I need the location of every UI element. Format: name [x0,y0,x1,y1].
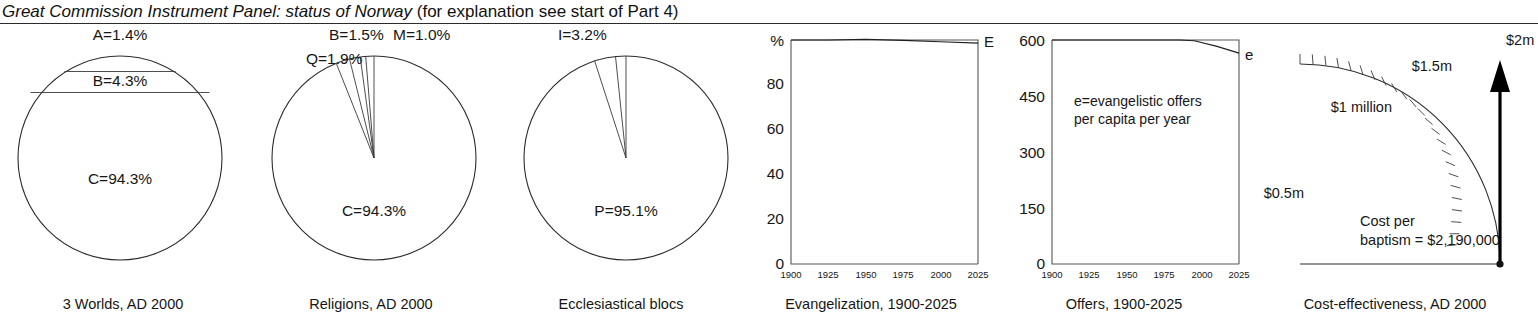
gauge-label-1: $1 million [1331,99,1392,115]
three-worlds-pie-svg: A=1.4% B=4.3% C=94.3% [0,26,246,288]
x-tick-1900: 1900 [780,269,801,280]
chart-three-worlds: A=1.4% B=4.3% C=94.3% 3 Worlds, AD 2000 [0,26,246,316]
gauge-label-2: $1.5m [1412,58,1452,74]
gauge-note-line2: baptism = $2,190,000 [1360,232,1500,248]
x-tick-1950: 1950 [1116,269,1137,280]
chart-religions: B=1.5% M=1.0% Q=1.9% C=94.3% Religions, … [246,26,496,316]
x-tick-1975: 1975 [892,269,913,280]
cost-effectiveness-gauge-svg: $0.5m $1 million $1.5m $2m Cost per bapt… [1252,26,1538,288]
y-tick-450: 450 [1019,88,1045,105]
panel-header: Great Commission Instrument Panel: statu… [0,0,1538,26]
x-tick-2025: 2025 [1228,269,1249,280]
x-tick-1900: 1900 [1041,269,1062,280]
chart-cost-effectiveness: $0.5m $1 million $1.5m $2m Cost per bapt… [1252,26,1538,316]
offers-note-line2: per capita per year [1074,111,1191,127]
pie-label-m: M=1.0% [393,26,451,43]
caption-cost-effectiveness: Cost-effectiveness, AD 2000 [1252,296,1538,312]
series-label-E: E [984,33,994,50]
x-tick-1925: 1925 [817,269,838,280]
series-line-e [1052,40,1239,53]
pie-label-p: P=95.1% [594,202,658,219]
gauge-label-0: $0.5m [1264,185,1304,201]
pie-label-i: I=3.2% [558,26,607,43]
caption-offers: Offers, 1900-2025 [996,296,1252,312]
gauge-note-line1: Cost per [1360,213,1415,229]
caption-three-worlds: 3 Worlds, AD 2000 [0,296,246,312]
pie-label-c: C=94.3% [88,170,152,187]
pie-label-b: B=4.3% [93,72,148,89]
plot-axes [1052,40,1239,264]
y-tick-20: 20 [767,210,785,227]
pie-label-b: B=1.5% [329,26,384,43]
page-title-italic: Great Commission Instrument Panel: statu… [2,2,412,21]
evangelization-line-svg: % 80 60 40 20 0 1900 1925 1950 1975 2000… [746,26,996,288]
x-tick-1925: 1925 [1078,269,1099,280]
plot-frame-top-right [1052,40,1239,264]
y-tick-60: 60 [767,120,785,137]
caption-religions: Religions, AD 2000 [246,296,496,312]
chart-evangelization: % 80 60 40 20 0 1900 1925 1950 1975 2000… [746,26,996,316]
chart-ecclesiastical-blocs: I=3.2% P=95.1% Ecclesiastical blocs [496,26,746,316]
pie-label-a: A=1.4% [93,26,148,43]
x-tick-1950: 1950 [855,269,876,280]
y-tick-300: 300 [1019,144,1045,161]
x-tick-2000: 2000 [1191,269,1212,280]
caption-ecclesiastical-blocs: Ecclesiastical blocs [496,296,746,312]
page-title-plain: (for explanation see start of Part 4) [412,2,678,21]
plot-axes [791,40,978,264]
y-axis-unit: % [770,32,784,49]
pie-label-c: C=94.3% [342,202,406,219]
page-title: Great Commission Instrument Panel: statu… [2,1,679,22]
offers-note-line1: e=evangelistic offers [1074,93,1202,109]
instrument-panel: Great Commission Instrument Panel: statu… [0,0,1538,316]
y-tick-40: 40 [767,165,785,182]
header-divider [0,23,1538,24]
gauge-pivot [1496,260,1503,267]
plot-frame-top-right [791,40,978,264]
x-tick-1975: 1975 [1153,269,1174,280]
y-tick-150: 150 [1019,200,1045,217]
gauge-label-3: $2m [1506,32,1534,48]
caption-evangelization: Evangelization, 1900-2025 [746,296,996,312]
chart-offers: 600 450 300 150 0 1900 1925 1950 1975 20… [996,26,1252,316]
blocs-pie-svg: I=3.2% P=95.1% [496,26,746,288]
x-tick-2000: 2000 [930,269,951,280]
gauge-needle-arrowhead [1490,60,1510,92]
religions-pie-svg: B=1.5% M=1.0% Q=1.9% C=94.3% [246,26,496,288]
y-tick-80: 80 [767,75,785,92]
x-tick-2025: 2025 [967,269,988,280]
pie-radius-4 [337,64,375,158]
y-tick-600: 600 [1019,32,1045,49]
offers-line-svg: 600 450 300 150 0 1900 1925 1950 1975 20… [996,26,1252,288]
pie-label-q: Q=1.9% [306,50,363,67]
